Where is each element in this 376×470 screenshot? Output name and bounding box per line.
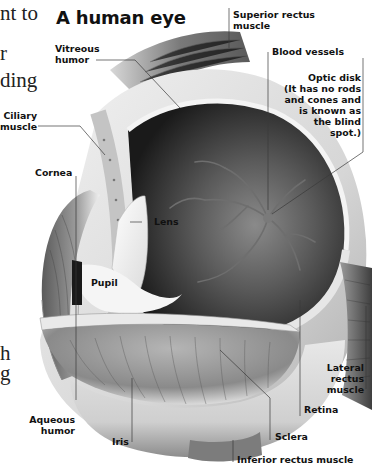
label-line: muscle bbox=[0, 121, 37, 132]
label-aqueous-humor: Aqueous humor bbox=[20, 414, 75, 436]
label-line: spot.) bbox=[284, 127, 361, 138]
body-text-fragment-5: g bbox=[0, 363, 11, 384]
label-line: Retina bbox=[304, 404, 338, 415]
label-line: Optic disk bbox=[284, 72, 361, 83]
label-line: Iris bbox=[112, 436, 129, 447]
label-cornea: Cornea bbox=[35, 167, 72, 178]
body-text-fragment-1: nt to bbox=[0, 3, 38, 24]
eye-illustration: - bbox=[0, 0, 376, 470]
label-line: muscle bbox=[320, 384, 364, 395]
label-line: rectus bbox=[320, 373, 364, 384]
label-pupil: Pupil bbox=[91, 277, 118, 288]
body-text-fragment-3: ding bbox=[0, 70, 37, 91]
label-line: Cornea bbox=[35, 167, 72, 178]
label-line: muscle bbox=[233, 20, 315, 31]
label-line: Pupil bbox=[91, 277, 118, 288]
label-line: Sclera bbox=[275, 431, 308, 442]
label-line: Inferior rectus muscle bbox=[237, 454, 353, 465]
label-optic-disk: Optic disk (It has no rods and cones and… bbox=[284, 72, 361, 138]
label-blood-vessels: Blood vessels bbox=[272, 46, 344, 57]
label-line: Superior rectus bbox=[233, 9, 315, 20]
figure-title: A human eye bbox=[56, 7, 186, 28]
label-line: humor bbox=[20, 425, 75, 436]
label-lateral-rectus: Lateral rectus muscle bbox=[320, 362, 364, 395]
label-line: Aqueous bbox=[20, 414, 75, 425]
label-line: Lateral bbox=[320, 362, 364, 373]
label-line: Vitreous bbox=[55, 43, 99, 54]
label-vitreous-humor: Vitreous humor bbox=[55, 43, 99, 65]
label-lens: Lens bbox=[154, 216, 179, 227]
label-sclera: Sclera bbox=[275, 431, 308, 442]
optic-disk-shape bbox=[263, 213, 273, 223]
label-line: and cones and bbox=[284, 94, 361, 105]
label-ciliary-muscle: Ciliary muscle bbox=[0, 110, 37, 132]
label-inferior-rectus: Inferior rectus muscle bbox=[237, 454, 353, 465]
label-line: is known as bbox=[284, 105, 361, 116]
textbook-page: - nt to r ding h g A human eye Superior … bbox=[0, 0, 376, 470]
label-retina: Retina bbox=[304, 404, 338, 415]
label-line: (It has no rods bbox=[284, 83, 361, 94]
body-text-fragment-2: r bbox=[0, 43, 7, 64]
label-line: humor bbox=[55, 54, 99, 65]
label-superior-rectus: Superior rectus muscle bbox=[233, 9, 315, 31]
label-line: Ciliary bbox=[0, 110, 37, 121]
label-iris: Iris bbox=[112, 436, 129, 447]
label-line: Blood vessels bbox=[272, 46, 344, 57]
label-line: the blind bbox=[284, 116, 361, 127]
label-line: Lens bbox=[154, 216, 179, 227]
